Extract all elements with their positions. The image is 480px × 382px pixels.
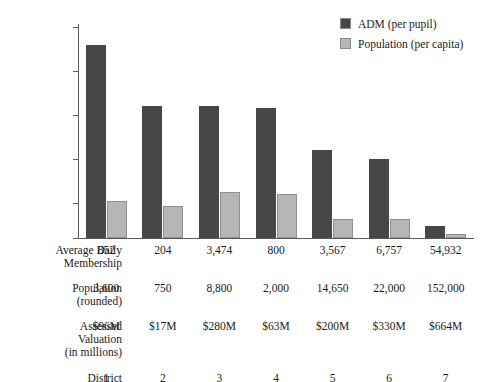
table-cell: 750 (154, 282, 171, 294)
plot-area: $5,000$25,000$50,000$75,000$100,000$125,… (78, 24, 474, 239)
x-axis-line (78, 238, 474, 239)
table-cell: 204 (154, 244, 171, 256)
data-table: Average Daily Membership8522043,4748003,… (0, 240, 480, 382)
table-cell: 3,567 (320, 244, 346, 256)
table-cell: 22,000 (373, 282, 405, 294)
table-cell: $330M (373, 320, 406, 332)
bar-adm (369, 159, 389, 238)
table-cell: 152,000 (427, 282, 464, 294)
bar-population (163, 206, 183, 238)
table-cell: 54,932 (430, 244, 462, 256)
bar-population (446, 234, 466, 238)
y-axis-line (78, 24, 79, 239)
table-cell: 2,000 (263, 282, 289, 294)
y-tick-mark (73, 159, 78, 160)
bar-adm (312, 150, 332, 238)
table-cell: $63M (262, 320, 289, 332)
table-cell: 14,650 (317, 282, 349, 294)
y-tick-mark (73, 27, 78, 28)
table-cell: 3 (217, 372, 223, 382)
table-cell: 4 (273, 372, 279, 382)
y-tick-mark (73, 203, 78, 204)
table-cell: 6,757 (376, 244, 402, 256)
bar-chart-figure: ADM (per pupil) Population (per capita) … (0, 0, 480, 382)
y-tick-mark (73, 238, 78, 239)
bar-adm (142, 106, 162, 238)
bar-adm (86, 45, 106, 238)
bar-population (390, 219, 410, 238)
table-cell: 5 (330, 372, 336, 382)
y-tick-mark (73, 71, 78, 72)
table-cell: 3,474 (206, 244, 232, 256)
table-cell: 852 (98, 244, 115, 256)
table-cell: $96M (93, 320, 120, 332)
table-cell: 2 (160, 372, 166, 382)
table-cell: $200M (316, 320, 349, 332)
table-cell: $664M (429, 320, 462, 332)
bar-adm (425, 226, 445, 238)
bar-population (220, 192, 240, 238)
bar-adm (199, 106, 219, 238)
table-cell: 800 (267, 244, 284, 256)
table-cell: $17M (149, 320, 176, 332)
table-cell: $280M (203, 320, 236, 332)
y-tick-mark (73, 115, 78, 116)
bar-adm (256, 108, 276, 238)
table-cell: 6 (386, 372, 392, 382)
bar-population (333, 219, 353, 238)
bar-population (277, 194, 297, 238)
table-cell: 8,800 (206, 282, 232, 294)
table-cell: 7 (443, 372, 449, 382)
bar-population (107, 201, 127, 238)
table-cell: 3,600 (93, 282, 119, 294)
table-cell: 1 (103, 372, 109, 382)
